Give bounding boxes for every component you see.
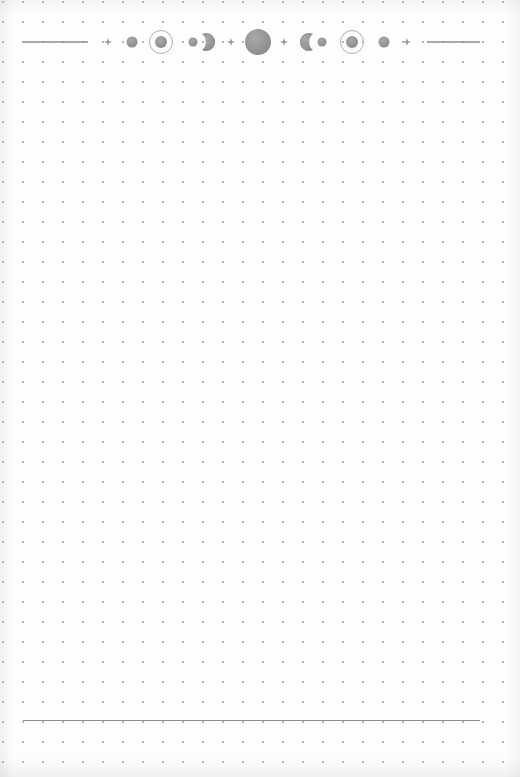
moon-phase-header	[0, 22, 520, 62]
sparkle-icon	[227, 38, 235, 46]
sparkle-icon	[403, 38, 411, 46]
full-moon-icon	[245, 29, 271, 55]
new-moon-dot-icon	[379, 37, 390, 48]
dot-grid	[0, 0, 520, 777]
waning-crescent-icon	[300, 33, 313, 51]
small-moon-dot-icon	[318, 38, 327, 47]
new-moon-dot-icon	[127, 37, 138, 48]
ringed-moon-icon	[341, 31, 364, 54]
journal-page	[0, 0, 520, 777]
bottom-rule	[23, 720, 480, 722]
sparkle-icon	[280, 38, 288, 46]
small-moon-dot-icon	[189, 38, 198, 47]
waxing-crescent-icon	[202, 33, 215, 51]
sparkle-icon	[104, 38, 112, 46]
ringed-moon-icon	[150, 31, 173, 54]
